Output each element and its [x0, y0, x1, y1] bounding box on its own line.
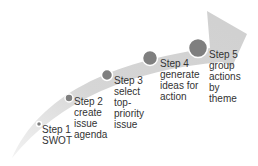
step-title: Step 1: [42, 124, 72, 135]
step-text: agenda: [74, 129, 107, 140]
step-title: Step 3: [114, 75, 144, 86]
step-title: Step 4: [160, 58, 199, 69]
step-2-label: Step 2 create issue agenda: [74, 96, 107, 140]
step-title: Step 2: [74, 96, 107, 107]
step-3-label: Step 3 select top- priority issue: [114, 75, 144, 130]
step-2-marker: [65, 94, 73, 102]
step-5-marker: [189, 39, 208, 58]
step-title: Step 5: [209, 49, 241, 60]
step-text: issue: [74, 118, 107, 129]
step-text: ideas for: [160, 80, 199, 91]
step-text: generate: [160, 69, 199, 80]
step-text: by: [209, 82, 241, 93]
step-4-label: Step 4 generate ideas for action: [160, 58, 199, 102]
step-text: actions: [209, 71, 241, 82]
step-5-label: Step 5 group actions by theme: [209, 49, 241, 104]
step-text: issue: [114, 119, 144, 130]
step-text: group: [209, 60, 241, 71]
step-text: select: [114, 86, 144, 97]
step-text: theme: [209, 93, 241, 104]
step-1-label: Step 1 SWOT: [42, 124, 72, 146]
step-text: action: [160, 91, 199, 102]
step-1-marker: [37, 122, 42, 127]
step-3-marker: [102, 70, 113, 81]
step-4-marker: [143, 51, 158, 66]
step-text: top-: [114, 97, 144, 108]
step-text: create: [74, 107, 107, 118]
step-text: SWOT: [42, 135, 72, 146]
step-text: priority: [114, 108, 144, 119]
